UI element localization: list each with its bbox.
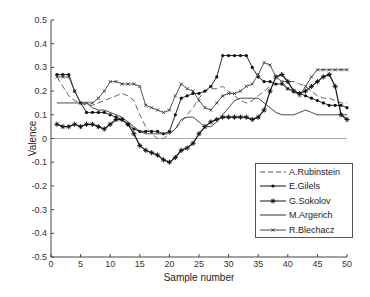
- y-tick-label: 0: [42, 134, 47, 144]
- legend-swatch-icon: [259, 210, 287, 220]
- y-tick-label: -0.1: [31, 157, 47, 167]
- legend-item: R.Blechacz: [256, 223, 352, 237]
- legend-item: E.Gilels: [256, 179, 352, 193]
- legend-label: A.Rubinstein: [289, 167, 340, 177]
- x-tick-label: 20: [164, 259, 174, 269]
- x-tick-label: 25: [194, 259, 204, 269]
- x-tick-label: 5: [78, 259, 83, 269]
- y-tick-label: 0.4: [34, 39, 47, 49]
- x-tick-label: 45: [312, 259, 322, 269]
- x-tick-label: 0: [48, 259, 53, 269]
- legend-swatch-icon: [259, 225, 287, 235]
- chart: -0.5-0.4-0.3-0.2-0.100.10.20.30.40.50510…: [0, 0, 370, 297]
- y-tick-label: -0.4: [31, 228, 47, 238]
- x-tick-label: 10: [105, 259, 115, 269]
- y-tick-label: 0.5: [34, 15, 47, 25]
- x-tick-label: 40: [283, 259, 293, 269]
- legend-label: G.Sokolov: [289, 196, 331, 206]
- legend-item: M.Argerich: [256, 208, 352, 222]
- legend-swatch-icon: [259, 167, 287, 177]
- legend-swatch-icon: [259, 196, 287, 206]
- x-tick-label: 35: [253, 259, 263, 269]
- series-a-rubinstein: [57, 77, 347, 139]
- y-axis-label: Valence: [27, 120, 38, 156]
- legend-label: R.Blechacz: [289, 225, 335, 235]
- y-tick-label: 0.1: [34, 110, 47, 120]
- y-tick-label: -0.2: [31, 181, 47, 191]
- series-e-gilels: [55, 54, 348, 135]
- series-r-blechacz: [55, 61, 348, 114]
- y-tick-label: -0.3: [31, 205, 47, 215]
- plot-area: -0.5-0.4-0.3-0.2-0.100.10.20.30.40.50510…: [0, 0, 370, 297]
- legend-item: A.Rubinstein: [256, 165, 352, 179]
- x-tick-label: 15: [135, 259, 145, 269]
- legend-swatch-icon: [259, 181, 287, 191]
- legend-label: E.Gilels: [289, 181, 320, 191]
- x-tick-label: 50: [342, 259, 352, 269]
- legend-item: G.Sokolov: [256, 194, 352, 208]
- x-tick-label: 30: [224, 259, 234, 269]
- legend-label: M.Argerich: [289, 210, 333, 220]
- y-tick-label: -0.5: [31, 252, 47, 262]
- y-tick-label: 0.2: [34, 86, 47, 96]
- legend: A.RubinsteinE.GilelsG.SokolovM.ArgerichR…: [255, 163, 353, 238]
- y-tick-label: 0.3: [34, 62, 47, 72]
- x-axis-label: Sample number: [164, 272, 235, 283]
